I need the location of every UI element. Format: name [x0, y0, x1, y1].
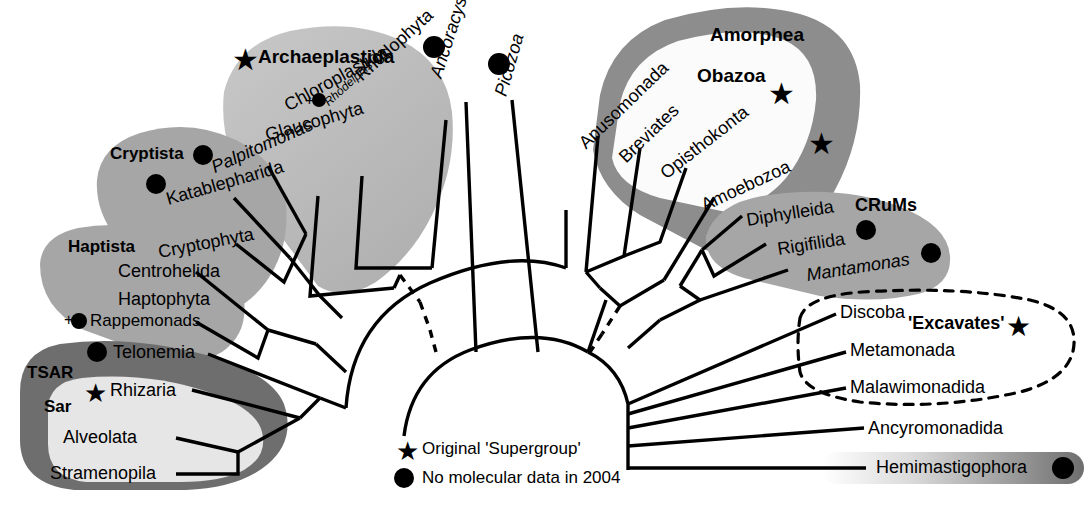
dot-katablepharida — [146, 174, 166, 194]
branch-crums-stem — [680, 250, 702, 286]
dot-telonemia — [87, 342, 107, 362]
branch-ancyromonadida — [628, 428, 864, 446]
label-amorphea: Amorphea — [710, 25, 804, 44]
label-rhizaria: Rhizaria — [110, 381, 176, 399]
label-haptista: Haptista — [68, 238, 135, 255]
legend-star-label: Original 'Supergroup' — [422, 440, 581, 457]
dot-mantamonas — [921, 243, 941, 263]
branch-amorphea-join — [600, 280, 664, 306]
branch-crypt-join — [320, 296, 342, 318]
branch-crums-join — [660, 286, 700, 320]
hub-arc-outer — [346, 261, 566, 408]
label-obazoa: Obazoa — [697, 66, 766, 85]
label-plus-rappemonads: + — [64, 312, 73, 328]
label-metamonada: Metamonada — [850, 341, 955, 359]
branch-arch-link — [430, 330, 436, 352]
branch-picozoa — [512, 100, 538, 352]
branch-crums-link — [628, 320, 660, 348]
branch-obazoa-stem — [586, 272, 600, 288]
legend-dot-label: No molecular data in 2004 — [422, 469, 620, 486]
branch-amorphea-root — [602, 306, 620, 334]
branch-tsar-stem — [300, 398, 320, 418]
label-malawimonadida: Malawimonadida — [850, 378, 985, 396]
branch-malawimonadida — [628, 388, 846, 428]
label-rappemonads: Rappemonads — [90, 312, 201, 329]
label-centrohelida: Centrohelida — [118, 262, 220, 280]
label-excavates: 'Excavates' — [908, 314, 1005, 332]
label-hemimastigophora: Hemimastigophora — [876, 458, 1027, 476]
branch-hapt-join — [316, 344, 346, 372]
branch-arch-root2 — [420, 302, 430, 330]
label-cryptista: Cryptista — [110, 145, 184, 162]
branch-metamonada — [628, 352, 846, 414]
label-haptophyta: Haptophyta — [118, 290, 210, 308]
label-tsar: TSAR — [27, 364, 73, 381]
dot-rigifilida — [856, 220, 876, 240]
branch-hapt-stem — [268, 330, 316, 344]
figure-canvas: ★ ★ ★ ★ ★ ★ Archaeplastida Rhodophyta + … — [0, 0, 1086, 515]
label-sar: Sar — [44, 398, 71, 415]
label-alveolata: Alveolata — [63, 428, 137, 446]
label-discoba: Discoba — [840, 303, 905, 321]
dot-rappemonads — [71, 313, 87, 329]
star-rhizaria: ★ — [84, 378, 107, 408]
branch-arch-stem — [394, 275, 400, 288]
label-stramenopila: Stramenopila — [50, 464, 156, 482]
star-excavates: ★ — [1006, 311, 1031, 342]
hub-spoke-2 — [588, 300, 606, 352]
branch-apusomonada — [586, 136, 598, 272]
hub-arc-right — [588, 352, 628, 470]
dot-legend — [394, 468, 414, 488]
branch-ancoracysta — [466, 102, 476, 352]
star-archaeplastida: ★ — [232, 43, 259, 76]
star-opisthokonta: ★ — [768, 77, 795, 110]
label-crums: CRuMs — [855, 196, 917, 214]
hub-arc-inner — [404, 337, 588, 436]
star-legend: ★ — [396, 436, 419, 466]
label-ancyromonadida: Ancyromonadida — [868, 419, 1003, 437]
dot-hemimastigophora — [1052, 457, 1074, 479]
branch-tsar-join — [320, 398, 346, 408]
label-telonemia: Telonemia — [113, 343, 195, 361]
star-amoebozoa: ★ — [808, 127, 835, 160]
branch-discoba — [628, 314, 836, 404]
